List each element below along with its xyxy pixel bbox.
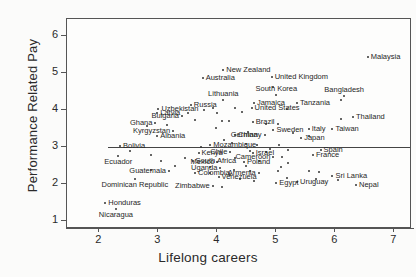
x-axis-title: Lifelong careers — [0, 250, 416, 265]
data-point-label: New Zealand — [226, 66, 270, 74]
y-tick-label: 4 — [40, 102, 58, 114]
data-point — [287, 149, 289, 151]
reference-line — [108, 147, 411, 148]
data-point — [221, 186, 223, 188]
data-point-label: Poland — [247, 158, 270, 166]
data-point — [129, 150, 131, 152]
data-point-label: Dominican Republic — [101, 181, 168, 189]
scatter-plot: Performance Related Pay Lifelong careers… — [0, 0, 416, 277]
data-point — [340, 99, 342, 101]
data-point-label: Bangladesh — [324, 86, 364, 94]
data-point-label: Nepal — [359, 181, 379, 189]
y-tick — [61, 72, 66, 73]
data-point-labeled — [300, 137, 302, 139]
data-point-label: Australia — [206, 75, 235, 83]
data-point-labeled — [271, 76, 273, 78]
data-point-label: Malaysia — [371, 53, 401, 61]
data-point-labeled — [168, 170, 170, 172]
y-tick-label: 2 — [40, 176, 58, 188]
data-point-label: Zimbabwe — [175, 182, 210, 190]
data-point-label: Bolivia — [123, 142, 145, 150]
data-point-labeled — [181, 115, 183, 117]
data-point-labeled — [202, 77, 204, 79]
data-point-label: Honduras — [108, 199, 141, 207]
y-tick-label: 5 — [40, 65, 58, 77]
data-point-labeled — [264, 134, 266, 136]
data-point-labeled — [308, 128, 310, 130]
y-axis-line — [66, 18, 67, 229]
data-point-label: Italy — [312, 125, 326, 133]
data-point — [340, 118, 342, 120]
data-point — [150, 154, 152, 156]
y-tick-label: 3 — [40, 139, 58, 151]
data-point — [277, 170, 279, 172]
data-point — [215, 127, 217, 129]
data-point — [234, 107, 236, 109]
data-point — [216, 112, 218, 114]
y-tick — [61, 109, 66, 110]
data-point — [281, 156, 283, 158]
data-point-label: Nicaragua — [99, 211, 133, 219]
data-point-label: South Korea — [255, 85, 297, 93]
data-point — [256, 144, 258, 146]
data-point — [200, 146, 202, 148]
data-point-labeled — [275, 182, 277, 184]
data-point-labeled — [212, 185, 214, 187]
data-point-labeled — [331, 175, 333, 177]
data-point-labeled — [104, 202, 106, 204]
y-tick — [61, 146, 66, 147]
x-tick-label: 3 — [142, 233, 172, 245]
data-point — [280, 166, 282, 168]
data-point-label: Bulgaria — [151, 113, 179, 121]
data-point-labeled — [154, 122, 156, 124]
data-point-label: Albania — [160, 133, 185, 141]
data-point-labeled — [367, 56, 369, 58]
data-point-labeled — [209, 144, 211, 146]
data-point-labeled — [198, 152, 200, 154]
y-tick-label: 6 — [40, 28, 58, 40]
y-tick — [61, 220, 66, 221]
data-point-label: Guatemala — [129, 167, 166, 175]
x-axis-line — [66, 228, 414, 229]
x-tick-label: 4 — [201, 233, 231, 245]
x-tick-label: 2 — [83, 233, 113, 245]
data-point — [174, 165, 176, 167]
data-point-labeled — [156, 135, 158, 137]
data-point-label: China — [238, 131, 258, 139]
x-tick — [98, 228, 99, 232]
data-point — [318, 171, 320, 173]
data-point — [221, 120, 223, 122]
x-tick-label: 5 — [260, 233, 290, 245]
data-point-label: Sweden — [276, 126, 303, 134]
data-point-label: Taiwan — [335, 125, 358, 133]
data-point-labeled — [272, 129, 274, 131]
x-tick — [275, 228, 276, 232]
data-point-label: Thailand — [356, 113, 385, 121]
x-tick — [157, 228, 158, 232]
data-point-labeled — [352, 116, 354, 118]
y-tick-label: 1 — [40, 213, 58, 225]
data-point-labeled — [222, 99, 224, 101]
data-point-labeled — [312, 154, 314, 156]
data-point-labeled — [275, 94, 277, 96]
data-point-label: Japan — [304, 134, 324, 142]
data-point — [228, 120, 230, 122]
y-tick — [61, 35, 66, 36]
data-point-label: Venezuela — [222, 173, 257, 181]
data-point — [184, 157, 186, 159]
data-point-labeled — [157, 108, 159, 110]
x-tick — [334, 228, 335, 232]
data-point — [160, 160, 162, 162]
data-point-labeled — [251, 107, 253, 109]
data-point-label: United States — [255, 104, 300, 112]
data-point-labeled — [355, 184, 357, 186]
y-axis-title: Performance Related Pay — [25, 26, 40, 206]
data-point-label: Uruguay — [300, 178, 328, 186]
y-tick — [61, 183, 66, 184]
data-point — [308, 170, 310, 172]
data-point-labeled — [229, 151, 231, 153]
x-tick — [393, 228, 394, 232]
data-point-label: Ghana — [130, 119, 153, 127]
x-tick-label: 7 — [378, 233, 408, 245]
data-point-label: Tanzania — [300, 99, 330, 107]
